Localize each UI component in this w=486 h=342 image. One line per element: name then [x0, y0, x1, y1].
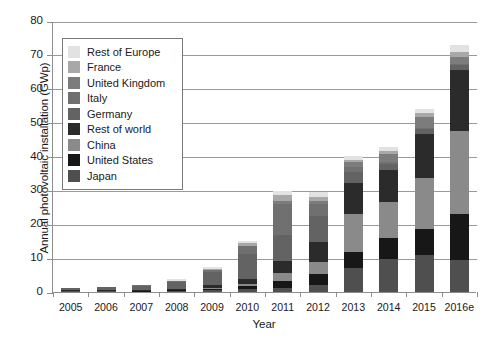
y-tick-mark — [47, 191, 53, 192]
bar-segment — [379, 154, 398, 162]
y-tick-mark — [47, 55, 53, 56]
x-tick-mark — [124, 292, 125, 297]
bar-segment — [309, 197, 328, 201]
stacked-bar — [238, 241, 257, 292]
bar-segment — [273, 204, 292, 236]
bar-segment — [415, 255, 434, 292]
legend-swatch-icon — [68, 61, 80, 73]
bar-segment — [450, 52, 469, 57]
y-tick-label: 30 — [9, 183, 43, 195]
legend-item-label: Japan — [87, 170, 117, 182]
x-tick-label: 2014 — [371, 301, 406, 313]
y-tick-mark — [47, 259, 53, 260]
stacked-bar — [344, 156, 363, 292]
bar-segment — [203, 285, 222, 288]
legend-item-united-states: United States — [68, 153, 176, 169]
bar-segment — [309, 201, 328, 204]
y-tick-label: 40 — [9, 150, 43, 162]
y-tick-label: 60 — [9, 82, 43, 94]
bar-segment — [450, 45, 469, 52]
legend-swatch-icon — [68, 77, 80, 89]
bar-segment — [61, 288, 80, 290]
bar-segment — [167, 281, 186, 282]
legend-item-label: United States — [87, 154, 153, 166]
x-tick-mark — [406, 292, 407, 297]
legend-swatch-icon — [68, 154, 80, 166]
x-tick-mark — [477, 292, 478, 297]
bar-segment — [132, 290, 151, 291]
x-tick-mark — [336, 292, 337, 297]
x-tick-mark — [230, 292, 231, 297]
x-axis-title: Year — [52, 318, 476, 330]
bar-segment — [273, 201, 292, 204]
legend-swatch-icon — [68, 170, 80, 182]
x-tick-mark — [194, 292, 195, 297]
stacked-bar — [61, 288, 80, 292]
gridline — [53, 191, 477, 192]
bar-segment — [273, 195, 292, 201]
gridline — [53, 225, 477, 226]
bar-segment — [167, 282, 186, 289]
x-tick-label: 2015 — [406, 301, 441, 313]
x-tick-label: 2010 — [230, 301, 265, 313]
legend-item-rest-of-world: Rest of world — [68, 122, 176, 138]
x-tick-label: 2016e — [442, 301, 477, 313]
bar-segment — [379, 164, 398, 170]
bar-segment — [450, 260, 469, 292]
bar-segment — [344, 214, 363, 252]
legend-swatch-icon — [68, 46, 80, 58]
legend-item-rest-of-europe: Rest of Europe — [68, 44, 176, 60]
bar-segment — [167, 279, 186, 281]
bar-segment — [344, 162, 363, 167]
bar-segment — [309, 216, 328, 242]
legend-item-france: France — [68, 60, 176, 76]
legend-item-united-kingdom: United Kingdom — [68, 75, 176, 91]
legend-item-label: Italy — [87, 92, 107, 104]
x-tick-label: 2006 — [88, 301, 123, 313]
stacked-bar — [203, 267, 222, 292]
bar-segment — [309, 274, 328, 285]
bar-segment — [238, 243, 257, 245]
bar-segment — [309, 262, 328, 274]
stacked-bar — [132, 286, 151, 292]
bar-segment — [273, 261, 292, 273]
bar-segment — [379, 147, 398, 151]
x-tick-mark — [88, 292, 89, 297]
bar-segment — [415, 117, 434, 128]
bar-segment — [379, 238, 398, 259]
legend-item-germany: Germany — [68, 106, 176, 122]
x-tick-label: 2009 — [194, 301, 229, 313]
x-tick-label: 2012 — [300, 301, 335, 313]
bar-segment — [238, 284, 257, 286]
legend-item-italy: Italy — [68, 91, 176, 107]
bar-segment — [132, 285, 151, 286]
bar-segment — [238, 286, 257, 289]
x-tick-label: 2005 — [53, 301, 88, 313]
x-tick-mark — [442, 292, 443, 297]
bar-segment — [273, 288, 292, 292]
chart-legend: Rest of EuropeFranceUnited KingdomItalyG… — [62, 38, 183, 190]
y-tick-label: 0 — [9, 285, 43, 297]
y-tick-label: 50 — [9, 116, 43, 128]
legend-swatch-icon — [68, 108, 80, 120]
bar-segment — [450, 65, 469, 70]
x-tick-mark — [265, 292, 266, 297]
stacked-bar — [273, 191, 292, 292]
bar-segment — [344, 252, 363, 268]
bar-segment — [273, 235, 292, 260]
y-tick-label: 70 — [9, 48, 43, 60]
stacked-bar — [309, 192, 328, 292]
bar-segment — [379, 170, 398, 202]
y-tick-label: 80 — [9, 14, 43, 26]
x-tick-mark — [53, 292, 54, 297]
bar-segment — [415, 128, 434, 129]
bar-segment — [379, 202, 398, 238]
bar-segment — [203, 267, 222, 270]
bar-segment — [203, 290, 222, 292]
bar-segment — [61, 291, 80, 292]
x-tick-mark — [300, 292, 301, 297]
bar-segment — [309, 242, 328, 262]
y-tick-mark — [47, 225, 53, 226]
legend-swatch-icon — [68, 92, 80, 104]
bar-segment — [203, 289, 222, 291]
